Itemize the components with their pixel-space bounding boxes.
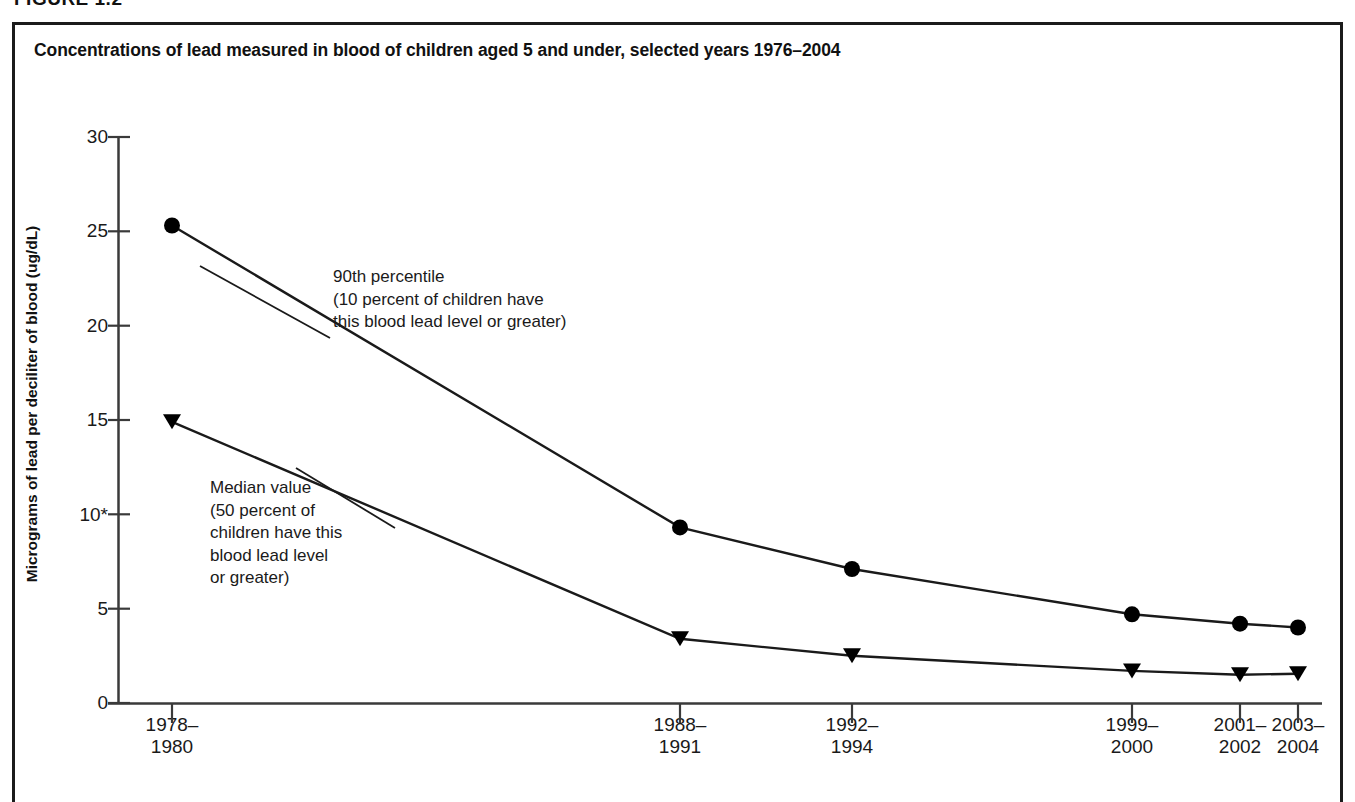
data-point-marker — [1124, 606, 1140, 622]
data-point-marker — [844, 561, 860, 577]
leader-line-90th — [200, 266, 330, 338]
x-axis-ticks — [172, 703, 1298, 723]
annotation-leader-lines — [200, 266, 395, 528]
data-point-marker — [672, 519, 688, 535]
data-point-marker — [1290, 620, 1306, 636]
data-point-marker — [1232, 616, 1248, 632]
series-median-value-line — [172, 422, 1298, 675]
axes — [108, 137, 1322, 704]
series-median-value — [163, 414, 1307, 682]
data-point-marker — [164, 218, 180, 234]
data-point-marker — [163, 414, 181, 429]
series-90th-percentile — [164, 218, 1306, 636]
series-90th-percentile-line — [172, 226, 1298, 628]
leader-line-median — [296, 468, 395, 528]
